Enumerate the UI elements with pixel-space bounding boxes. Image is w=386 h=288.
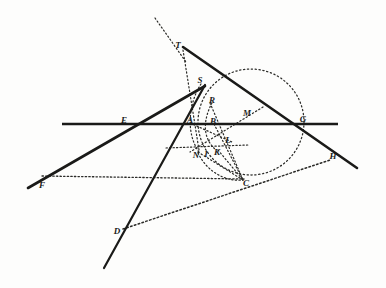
point-label-F: F [39, 181, 45, 190]
point-label-B: B [210, 117, 216, 126]
diagram-canvas [0, 0, 386, 288]
arc-R-K-inner [205, 103, 216, 150]
point-label-R: R [209, 96, 215, 105]
point-label-G: G [300, 115, 307, 124]
point-label-N: N [193, 151, 200, 160]
point-label-E: E [121, 116, 127, 125]
point-label-H: H [329, 152, 336, 161]
point-label-C: C [243, 179, 249, 188]
point-label-L: L [225, 136, 231, 145]
geometry-figure: T S R E A B M G L N I K H F C D [0, 0, 386, 288]
point-label-K: K [214, 148, 220, 157]
point-label-S: S [197, 76, 202, 85]
line-K-C [218, 150, 243, 180]
point-label-A: A [187, 116, 193, 125]
point-label-D: D [114, 227, 121, 236]
point-label-I: I [204, 150, 208, 159]
point-label-T: T [175, 41, 181, 50]
line-T-arc-upper [155, 18, 186, 62]
point-label-M: M [243, 109, 251, 118]
line-S-D-steep [104, 85, 205, 268]
line-F-S [28, 86, 205, 188]
line-horizontal-F-C [42, 176, 244, 179]
